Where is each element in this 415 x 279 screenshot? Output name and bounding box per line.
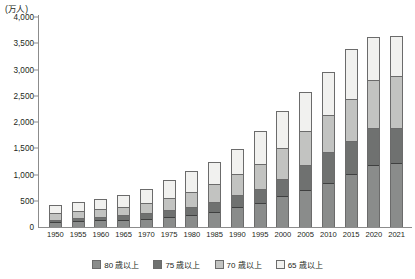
- bar-segment-s70: [232, 175, 243, 196]
- bar-segment-s65: [209, 163, 220, 185]
- bar-segment-s70: [255, 165, 266, 190]
- bar-segment-s75: [255, 190, 266, 204]
- x-axis-tick-label: 1950: [44, 230, 67, 244]
- bar-segment-s75: [391, 129, 402, 164]
- bar-series-container: [38, 17, 412, 227]
- bar-segment-s65: [300, 93, 311, 132]
- bar-segment-s65: [50, 206, 61, 214]
- stacked-bar: [276, 111, 289, 227]
- stacked-bar: [345, 49, 358, 227]
- bar-segment-s65: [391, 37, 402, 77]
- bar-segment-s75: [186, 208, 197, 215]
- stacked-bar: [94, 199, 107, 227]
- bar-segment-s65: [141, 190, 152, 205]
- bar-column: [112, 17, 135, 227]
- stacked-bar: [367, 37, 380, 227]
- legend-label: 80 歳以上: [104, 259, 139, 270]
- bar-column: [90, 17, 113, 227]
- stacked-bar: [117, 195, 130, 227]
- bar-column: [385, 17, 408, 227]
- bar-segment-s80: [232, 208, 243, 227]
- y-axis-tick-label: 2,000: [14, 118, 35, 127]
- x-axis-tick-label: 1980: [181, 230, 204, 244]
- bar-column: [294, 17, 317, 227]
- bar-column: [135, 17, 158, 227]
- x-axis-tick-label: 2021: [385, 230, 408, 244]
- x-axis-tick-label: 2015: [340, 230, 363, 244]
- legend-swatch-icon: [92, 260, 101, 269]
- legend-label: 75 歳以上: [165, 259, 200, 270]
- bar-segment-s80: [391, 164, 402, 227]
- bar-column: [340, 17, 363, 227]
- bar-segment-s70: [95, 210, 106, 218]
- bar-segment-s70: [141, 204, 152, 214]
- stacked-bar: [49, 205, 62, 227]
- legend-item[interactable]: 80 歳以上: [92, 259, 139, 270]
- bar-segment-s65: [186, 172, 197, 193]
- bar-segment-s65: [95, 200, 106, 210]
- stacked-bar: [185, 171, 198, 227]
- bar-segment-s65: [164, 181, 175, 199]
- bar-segment-s65: [346, 50, 357, 100]
- legend-label: 65 歳以上: [288, 259, 323, 270]
- bar-segment-s65: [323, 73, 334, 116]
- bar-column: [203, 17, 226, 227]
- bar-column: [249, 17, 272, 227]
- bar-segment-s70: [300, 132, 311, 167]
- x-axis-tick-label: 2005: [294, 230, 317, 244]
- x-axis-tick-label: 2000: [272, 230, 295, 244]
- y-axis-tick-label: 3,500: [14, 39, 35, 48]
- x-axis-labels: 1950195519601965197019751980198519901995…: [38, 230, 412, 244]
- x-axis-tick-label: 1995: [249, 230, 272, 244]
- bar-segment-s70: [73, 212, 84, 219]
- bar-segment-s75: [209, 203, 220, 213]
- bar-segment-s80: [164, 218, 175, 227]
- x-axis-tick-label: 1965: [112, 230, 135, 244]
- plot-area: 4,0003,5003,0002,5002,0001,5001,0005000: [38, 17, 412, 227]
- stacked-bar: [390, 36, 403, 227]
- x-axis-line: [38, 227, 412, 228]
- bar-segment-s70: [209, 185, 220, 203]
- stacked-bar: [163, 180, 176, 227]
- x-axis-tick-label: 1975: [158, 230, 181, 244]
- y-axis-tick-label: 1,500: [14, 144, 35, 153]
- legend-item[interactable]: 75 歳以上: [153, 259, 200, 270]
- x-axis-tick-label: 2020: [363, 230, 386, 244]
- bar-column: [44, 17, 67, 227]
- bar-segment-s80: [209, 213, 220, 227]
- bar-segment-s80: [346, 175, 357, 227]
- legend-swatch-icon: [215, 260, 224, 269]
- bar-segment-s70: [346, 100, 357, 141]
- bar-segment-s80: [277, 197, 288, 227]
- bar-segment-s70: [186, 193, 197, 208]
- bar-segment-s65: [277, 112, 288, 148]
- bar-segment-s75: [300, 166, 311, 190]
- bar-segment-s80: [50, 223, 61, 227]
- y-axis-tick-label: 4,000: [14, 13, 35, 22]
- bar-column: [317, 17, 340, 227]
- legend-item[interactable]: 70 歳以上: [215, 259, 262, 270]
- x-axis-tick-label: 1970: [135, 230, 158, 244]
- stacked-bar: [322, 72, 335, 227]
- y-axis-tick-label: 2,500: [14, 91, 35, 100]
- bar-segment-s65: [73, 203, 84, 212]
- bar-segment-s75: [323, 153, 334, 184]
- bar-segment-s80: [255, 204, 266, 227]
- bar-column: [158, 17, 181, 227]
- bar-column: [226, 17, 249, 227]
- y-axis-tick-label: 1,000: [14, 170, 35, 179]
- bar-segment-s65: [368, 38, 379, 81]
- x-axis-tick-label: 1985: [203, 230, 226, 244]
- stacked-bar-chart: (万人) 4,0003,5003,0002,5002,0001,5001,000…: [0, 0, 415, 279]
- bar-segment-s80: [368, 166, 379, 227]
- y-axis-tick-label: 500: [20, 196, 34, 205]
- bar-segment-s65: [232, 150, 243, 175]
- bar-column: [272, 17, 295, 227]
- bar-segment-s65: [255, 132, 266, 165]
- bar-segment-s65: [118, 196, 129, 208]
- bar-segment-s70: [368, 81, 379, 129]
- stacked-bar: [72, 202, 85, 227]
- stacked-bar: [299, 92, 312, 227]
- legend-item[interactable]: 65 歳以上: [276, 259, 323, 270]
- stacked-bar: [140, 189, 153, 227]
